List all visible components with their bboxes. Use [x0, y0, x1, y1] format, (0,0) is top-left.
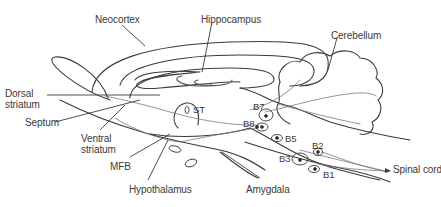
label-b7: B7	[253, 101, 264, 112]
label-mfb: MFB	[110, 161, 131, 172]
label-ventral-striatum-line1: Ventral	[81, 133, 111, 144]
label-st: ST	[193, 104, 205, 115]
label-b5: B5	[285, 133, 296, 144]
label-amygdala: Amygdala	[246, 184, 290, 195]
label-b3: B3	[279, 153, 290, 164]
label-dorsal-striatum-line1: Dorsal	[5, 88, 33, 99]
label-b8: B8	[243, 118, 254, 129]
label-neocortex: Neocortex	[95, 14, 140, 25]
olfactory-bulb	[52, 57, 110, 100]
label-spinal-cord: Spinal cord	[393, 164, 441, 175]
hippocampus-leader	[202, 22, 212, 72]
mfb-leader	[130, 134, 170, 157]
hypothalamus-leader	[148, 140, 168, 180]
st-oval	[185, 107, 189, 114]
brain-diagram: Neocortex Hippocampus Cerebellum Dorsal …	[0, 0, 441, 207]
cerebellum-leader	[328, 38, 337, 70]
neocortex-leader	[122, 25, 145, 46]
label-b2: B2	[312, 140, 323, 151]
label-cerebellum: Cerebellum	[331, 30, 381, 41]
ventral-striatum-leader	[100, 105, 125, 130]
amygdala-leader	[222, 152, 260, 178]
spinal-cord-arrow	[385, 168, 391, 173]
label-hippocampus: Hippocampus	[201, 14, 261, 25]
label-b1: B1	[323, 169, 334, 180]
neocortex-outline	[92, 41, 328, 92]
label-septum: Septum	[25, 117, 59, 128]
label-dorsal-striatum-line2: striatum	[5, 99, 40, 110]
label-hypothalamus: Hypothalamus	[129, 184, 192, 195]
label-ventral-striatum-line2: striatum	[81, 144, 116, 155]
